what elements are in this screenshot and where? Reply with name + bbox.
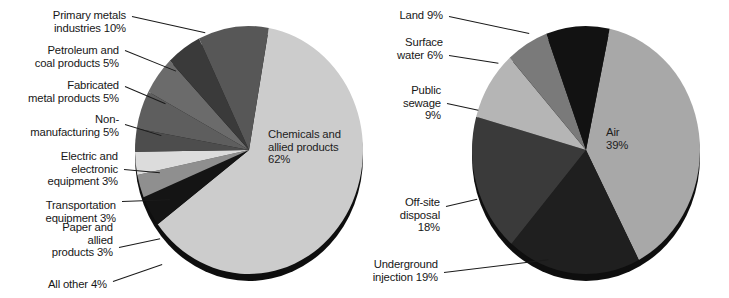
callout-label-line: industries 10% xyxy=(22,22,126,35)
callout-label-line: Petroleum and xyxy=(26,44,119,57)
pie-center-label-chemicals: Chemicals andallied products62% xyxy=(268,128,341,166)
callout-label-line: 18% xyxy=(381,221,440,234)
figure-canvas: Chemicals and allied products 62%All oth… xyxy=(0,0,729,298)
callout-label-line: injection 19% xyxy=(365,271,438,284)
pie-center-label-line: allied products xyxy=(268,141,341,154)
callout-label-land: Land 9% xyxy=(379,9,443,22)
callout-label-public-sewage: Publicsewage9% xyxy=(385,84,441,122)
pie-center-label-line: Air xyxy=(606,126,628,139)
callout-label-line: disposal xyxy=(381,209,440,222)
callout-label-line: products 3% xyxy=(32,246,113,259)
callout-label-line: Electric and xyxy=(24,150,118,163)
callout-label-line: sewage xyxy=(385,97,441,110)
callout-label-line: metal products 5% xyxy=(16,92,119,105)
callout-label-line: Off-site xyxy=(381,196,440,209)
callout-label-paper-allied: Paper andalliedproducts 3% xyxy=(32,221,113,259)
callout-label-line: Underground xyxy=(365,258,438,271)
pie-center-label-line: Chemicals and xyxy=(268,128,341,141)
pie-center-label-air: Air39% xyxy=(606,126,628,151)
callout-label-petroleum-coal: Petroleum andcoal products 5% xyxy=(26,44,119,69)
pie-chart-release-destinations: Air 39%Underground injection 19%Off-site… xyxy=(359,0,729,298)
callout-label-primary-metals: Primary metalsindustries 10% xyxy=(22,9,126,34)
callout-label-surface-water: Surfacewater 6% xyxy=(379,36,443,61)
callout-label-line: Land 9% xyxy=(379,9,443,22)
callout-label-line: Non- xyxy=(16,113,119,126)
callout-label-line: Fabricated xyxy=(16,79,119,92)
callout-label-line: Surface xyxy=(379,36,443,49)
callout-label-line: Transportation xyxy=(16,199,116,212)
callout-label-fabricated-metal: Fabricatedmetal products 5% xyxy=(16,79,119,104)
pie-center-label-line: 62% xyxy=(268,153,341,166)
callout-label-line: equipment 3% xyxy=(24,175,118,188)
callout-label-electric-electronic: Electric andelectronicequipment 3% xyxy=(24,150,118,188)
callout-label-line: coal products 5% xyxy=(26,57,119,70)
callout-label-line: electronic xyxy=(24,163,118,176)
callout-label-underground-injection: Undergroundinjection 19% xyxy=(365,258,438,283)
callout-label-off-site-disposal: Off-sitedisposal18% xyxy=(381,196,440,234)
callout-label-non-manufacturing: Non-manufacturing 5% xyxy=(16,113,119,138)
callout-label-line: water 6% xyxy=(379,49,443,62)
callout-label-line: Primary metals xyxy=(22,9,126,22)
callout-label-line: Paper and xyxy=(32,221,113,234)
pie-chart-industry-sources: Chemicals and allied products 62%All oth… xyxy=(0,0,370,298)
callout-label-line: 9% xyxy=(385,109,441,122)
callout-label-line: Public xyxy=(385,84,441,97)
callout-label-line: All other 4% xyxy=(28,278,107,291)
callout-label-all-other: All other 4% xyxy=(28,278,107,291)
callout-label-line: allied xyxy=(32,234,113,247)
pie-center-label-line: 39% xyxy=(606,139,628,152)
callout-label-line: manufacturing 5% xyxy=(16,126,119,139)
